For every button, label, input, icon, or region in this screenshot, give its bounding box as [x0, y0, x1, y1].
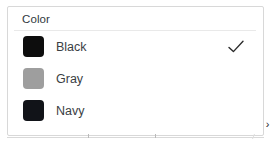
- panel-header: Color: [8, 7, 263, 30]
- check-icon: [227, 39, 245, 55]
- list-item-label: Black: [56, 39, 87, 55]
- axis-tick: [88, 134, 89, 138]
- list-item-label: Navy: [56, 103, 84, 119]
- axis-tick: [155, 134, 156, 138]
- color-swatch-navy: [23, 100, 44, 121]
- list-item[interactable]: Black: [8, 31, 263, 63]
- list-item-label: Gray: [56, 71, 83, 87]
- list-item[interactable]: Navy: [8, 95, 263, 127]
- color-swatch-gray: [23, 68, 44, 89]
- axis-line: [7, 137, 264, 138]
- page-title: Color: [22, 12, 50, 26]
- bottom-axis-strip: [7, 134, 264, 141]
- screenshot-root: Color Black Gray Navy ›: [0, 0, 274, 143]
- color-swatch-black: [23, 36, 44, 57]
- chevron-right-icon[interactable]: ›: [263, 118, 272, 131]
- axis-corner-mark: [242, 134, 255, 139]
- color-option-list: Black Gray Navy: [8, 31, 263, 127]
- list-item[interactable]: Gray: [8, 63, 263, 95]
- color-picker-panel: Color Black Gray Navy ›: [7, 6, 264, 136]
